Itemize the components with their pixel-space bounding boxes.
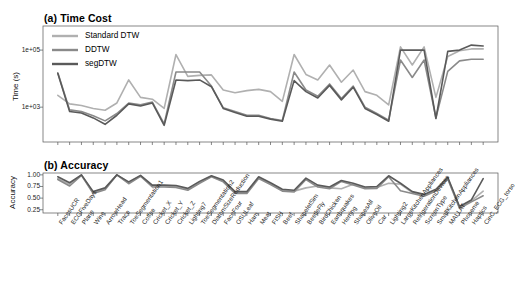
legend-item-label: DDTW bbox=[85, 45, 110, 54]
panel-b-y-tick-label: 0.50 bbox=[2, 194, 40, 201]
panel-a-y-tick-label: 1e+05 bbox=[2, 46, 40, 53]
panel-b-y-tick-label: 0.75 bbox=[2, 182, 40, 189]
legend-item-label: segDTW bbox=[85, 59, 117, 68]
legend-item-label: Standard DTW bbox=[85, 31, 139, 40]
panel-a-y-tick-label: 1e+03 bbox=[2, 103, 40, 110]
panel-b-y-tick-label: 0.25 bbox=[2, 206, 40, 213]
panel-a-series-line bbox=[58, 47, 483, 110]
panel-a-series-line bbox=[58, 45, 483, 125]
panel-a-series-group bbox=[58, 45, 483, 125]
panel-b-y-tick-label: 1.00 bbox=[2, 171, 40, 178]
